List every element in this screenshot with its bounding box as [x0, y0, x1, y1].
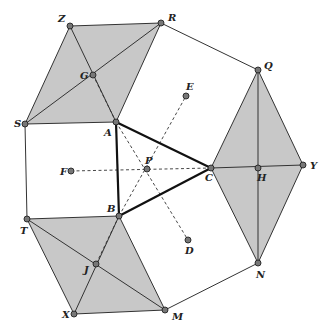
point-B — [116, 213, 122, 219]
geometry-diagram: ZRGSAEPFCQHYNTBJXMD — [0, 0, 325, 333]
point-F — [68, 168, 74, 174]
point-D — [185, 237, 191, 243]
side-CA — [116, 122, 211, 168]
label-H: H — [256, 172, 267, 183]
label-A: A — [103, 127, 112, 138]
triangle-abc — [116, 122, 211, 216]
label-Y: Y — [310, 160, 318, 171]
point-R — [158, 20, 164, 26]
label-N: N — [255, 269, 266, 280]
point-M — [162, 307, 168, 313]
label-P: P — [144, 155, 153, 166]
point-A — [113, 119, 119, 125]
point-P — [144, 166, 150, 172]
segment-RQ — [161, 23, 258, 70]
point-Z — [67, 23, 73, 29]
label-G: G — [80, 70, 89, 81]
label-S: S — [14, 118, 21, 129]
point-G — [90, 72, 96, 78]
point-C — [208, 165, 214, 171]
label-Z: Z — [57, 13, 66, 24]
point-T — [24, 216, 30, 222]
label-X: X — [61, 309, 71, 320]
label-M: M — [171, 311, 184, 322]
label-R: R — [167, 12, 176, 23]
label-B: B — [106, 203, 115, 214]
point-N — [255, 260, 261, 266]
point-S — [22, 121, 28, 127]
label-E: E — [185, 81, 194, 92]
label-F: F — [59, 166, 68, 177]
segment-ST — [25, 124, 27, 219]
label-Q: Q — [264, 60, 273, 71]
point-J — [93, 261, 99, 267]
label-D: D — [184, 245, 194, 256]
label-C: C — [205, 172, 213, 183]
point-Y — [300, 162, 306, 168]
side-AB — [116, 122, 119, 216]
point-X — [71, 311, 77, 317]
label-T: T — [20, 225, 29, 236]
point-E — [183, 93, 189, 99]
point-Q — [255, 67, 261, 73]
segment-NM — [165, 263, 258, 310]
point-H — [255, 165, 261, 171]
dashed-segment-FC — [71, 168, 211, 171]
